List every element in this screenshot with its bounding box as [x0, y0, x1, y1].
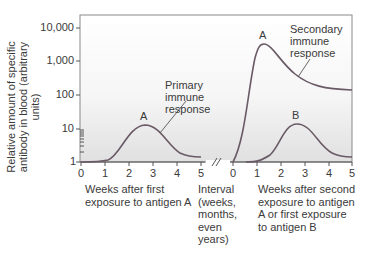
y-tick-100: 100	[24, 88, 74, 100]
y-tick-10: 10	[24, 122, 74, 134]
peak-label-secondary-a: A	[259, 29, 266, 41]
peak-label-primary-a: A	[140, 110, 147, 122]
x-title-interval: Interval (weeks, months, even years)	[198, 183, 237, 246]
peak-label-b: B	[292, 109, 299, 121]
x-tick-left-3: 3	[147, 167, 159, 179]
primary-response-label: Primary immune response	[165, 79, 210, 115]
x-title-first-exposure: Weeks after first exposure to antigen A	[85, 183, 191, 208]
y-tick-1000: 1,000	[24, 54, 74, 66]
x-tick-left-0: 0	[75, 167, 87, 179]
x-tick-right-4: 4	[323, 167, 335, 179]
x-tick-right-2: 2	[275, 167, 287, 179]
x-tick-right-3: 3	[299, 167, 311, 179]
x-tick-left-4: 4	[171, 167, 183, 179]
x-tick-left-5: 5	[195, 167, 207, 179]
y-tick-10000: 10,000	[24, 21, 74, 33]
x-title-second-exposure: Weeks after second exposure to antigen A…	[258, 183, 355, 233]
secondary-response-label: Secondary immune response	[290, 23, 343, 59]
x-tick-right-0: 0	[227, 167, 239, 179]
y-tick-1: 1	[26, 155, 76, 167]
x-tick-left-1: 1	[99, 167, 111, 179]
x-tick-right-5: 5	[346, 167, 358, 179]
x-tick-left-2: 2	[123, 167, 135, 179]
x-tick-right-1: 1	[251, 167, 263, 179]
